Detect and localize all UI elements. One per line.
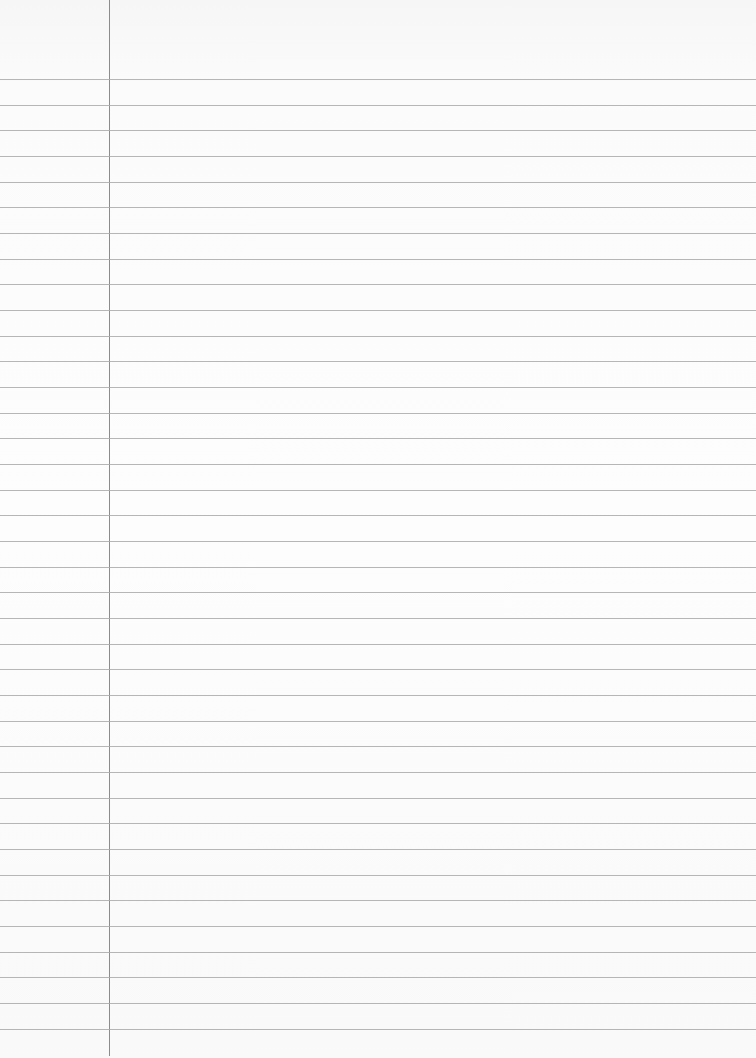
ruled-line xyxy=(0,875,756,876)
ruled-line xyxy=(0,515,756,516)
ruled-line xyxy=(0,849,756,850)
ruled-line xyxy=(0,900,756,901)
ruled-line xyxy=(0,105,756,106)
ruled-line xyxy=(0,233,756,234)
ruled-line xyxy=(0,592,756,593)
ruled-line xyxy=(0,336,756,337)
ruled-line xyxy=(0,490,756,491)
ruled-paper xyxy=(0,0,756,1058)
ruled-line xyxy=(0,413,756,414)
ruled-line xyxy=(0,798,756,799)
ruled-line xyxy=(0,259,756,260)
margin-line xyxy=(109,0,110,1056)
ruled-line xyxy=(0,156,756,157)
ruled-line xyxy=(0,977,756,978)
ruled-line xyxy=(0,464,756,465)
ruled-line xyxy=(0,721,756,722)
ruled-line xyxy=(0,438,756,439)
ruled-line xyxy=(0,669,756,670)
ruled-line xyxy=(0,182,756,183)
ruled-line xyxy=(0,952,756,953)
ruled-line xyxy=(0,1003,756,1004)
ruled-line xyxy=(0,644,756,645)
ruled-line xyxy=(0,823,756,824)
ruled-line xyxy=(0,284,756,285)
ruled-line xyxy=(0,207,756,208)
ruled-line xyxy=(0,130,756,131)
ruled-line xyxy=(0,618,756,619)
ruled-line xyxy=(0,361,756,362)
ruled-line xyxy=(0,567,756,568)
ruled-line xyxy=(0,695,756,696)
ruled-line xyxy=(0,541,756,542)
ruled-line xyxy=(0,1029,756,1030)
ruled-line xyxy=(0,926,756,927)
ruled-line xyxy=(0,746,756,747)
ruled-line xyxy=(0,79,756,80)
ruled-line xyxy=(0,310,756,311)
ruled-line xyxy=(0,387,756,388)
ruled-line xyxy=(0,772,756,773)
